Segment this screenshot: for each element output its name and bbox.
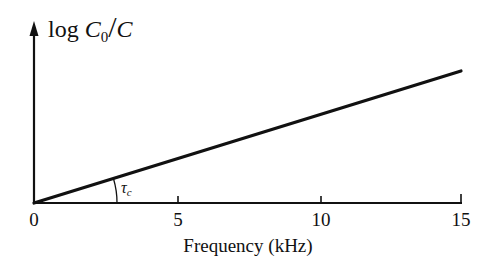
data-line: [34, 71, 461, 203]
y-axis-title: log C0/C: [48, 10, 134, 45]
svg-text:log C0/C: log C0/C: [48, 10, 134, 45]
y-axis-arrow-icon: [30, 21, 39, 36]
x-axis-title: Frequency (kHz): [183, 235, 312, 257]
y-label-prefix: log: [48, 16, 85, 42]
y-label-c0-sub: 0: [101, 29, 109, 45]
x-tick-label-0: 0: [29, 209, 39, 230]
x-tick-label-15: 15: [452, 209, 471, 230]
y-label-c0: C: [85, 16, 102, 42]
chart: 0 5 10 15 Frequency (kHz) log C0/C τc: [0, 0, 486, 277]
tau-c-annotation: τc: [121, 179, 132, 198]
angle-arc: [114, 179, 118, 203]
x-tick-label-5: 5: [173, 209, 183, 230]
y-label-c: C: [117, 16, 134, 42]
x-tick-label-10: 10: [312, 209, 331, 230]
